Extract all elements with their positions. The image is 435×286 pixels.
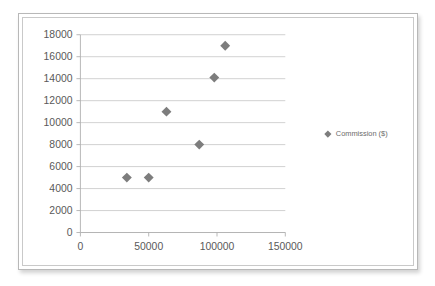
y-tick-label-12000: 12000 — [44, 95, 73, 106]
data-point-0-3[interactable] — [194, 140, 204, 150]
y-axis-group: 0200040006000800010000120001400016000180… — [44, 29, 81, 238]
chart-frame-outer: 0200040006000800010000120001400016000180… — [18, 13, 418, 270]
data-point-0-0[interactable] — [122, 173, 132, 183]
y-tick-label-18000: 18000 — [44, 29, 73, 40]
legend-diamond-marker-icon-0 — [324, 131, 331, 138]
scatter-chart[interactable]: 0200040006000800010000120001400016000180… — [23, 18, 413, 265]
data-point-0-2[interactable] — [162, 107, 172, 117]
data-point-0-1[interactable] — [144, 173, 154, 183]
x-tick-label-0: 0 — [78, 241, 84, 252]
x-tick-label-150000: 150000 — [268, 241, 303, 252]
x-axis-group: 050000100000150000 — [78, 233, 303, 253]
chart-legend[interactable]: Commission ($) — [324, 129, 387, 138]
x-tick-label-50000: 50000 — [134, 241, 163, 252]
x-tick-label-100000: 100000 — [200, 241, 235, 252]
data-point-0-5[interactable] — [220, 41, 230, 51]
y-tick-label-4000: 4000 — [49, 183, 72, 194]
data-points-group[interactable] — [122, 41, 230, 183]
data-point-0-4[interactable] — [209, 73, 219, 83]
gridlines-group — [80, 35, 285, 233]
y-tick-label-16000: 16000 — [44, 51, 73, 62]
legend-label-0: Commission ($) — [336, 129, 388, 138]
y-tick-label-14000: 14000 — [44, 73, 73, 84]
y-tick-label-6000: 6000 — [49, 161, 72, 172]
y-tick-label-10000: 10000 — [44, 117, 73, 128]
y-tick-label-8000: 8000 — [49, 139, 72, 150]
y-tick-label-0: 0 — [67, 227, 73, 238]
chart-frame-inner: 0200040006000800010000120001400016000180… — [22, 17, 414, 266]
chart-canvas: 0200040006000800010000120001400016000180… — [23, 18, 413, 265]
y-tick-label-2000: 2000 — [49, 205, 72, 216]
